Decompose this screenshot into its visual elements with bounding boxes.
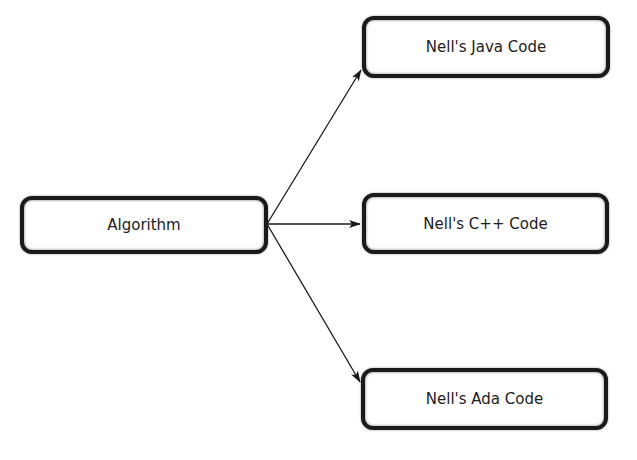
java-code-node: Nell's Java Code bbox=[362, 16, 610, 78]
arrow-to-ada bbox=[267, 224, 360, 382]
cpp-code-label: Nell's C++ Code bbox=[423, 215, 547, 233]
ada-code-label: Nell's Ada Code bbox=[426, 390, 543, 408]
java-code-label: Nell's Java Code bbox=[426, 38, 546, 56]
cpp-code-node: Nell's C++ Code bbox=[362, 193, 609, 254]
algorithm-label: Algorithm bbox=[107, 216, 180, 234]
ada-code-node: Nell's Ada Code bbox=[361, 368, 608, 430]
algorithm-node: Algorithm bbox=[20, 196, 268, 254]
arrow-to-java bbox=[267, 70, 361, 224]
